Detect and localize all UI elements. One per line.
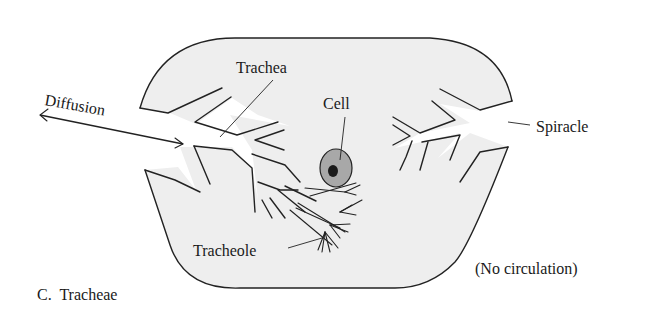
spiracle-pointer — [508, 122, 530, 125]
panel-label: C. Tracheae — [37, 286, 117, 303]
label-tracheole: Tracheole — [193, 242, 256, 259]
label-diffusion: Diffusion — [43, 91, 106, 118]
label-trachea: Trachea — [236, 59, 287, 76]
cell — [320, 149, 352, 187]
label-cell: Cell — [323, 95, 350, 112]
diffusion-arrow — [40, 109, 183, 148]
label-spiracle: Spiracle — [536, 118, 588, 136]
annotation-no-circulation: (No circulation) — [475, 260, 578, 278]
tracheal-system-diagram: Diffusion Trachea Cell Spiracle Tracheol… — [0, 0, 655, 318]
cell-nucleus — [328, 165, 338, 177]
